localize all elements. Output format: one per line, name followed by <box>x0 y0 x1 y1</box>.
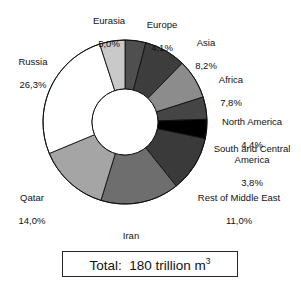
pie-chart-figure: Eurasia 5,0% Europe 4,1% Asia 8,2% Afric… <box>0 0 301 283</box>
total-amount: 180 <box>129 257 152 272</box>
donut-hole <box>92 89 158 155</box>
slice-label-russia-name: Russia <box>4 56 62 68</box>
slice-label-russia-value: 26,3% <box>4 79 62 91</box>
slice-label-africa-name: Africa <box>206 74 256 86</box>
slice-label-europe-value: 4,1% <box>136 42 188 54</box>
total-callout-text: Total: 180 trillion m3 <box>89 256 210 273</box>
slice-label-russia: Russia 26,3% <box>4 44 62 102</box>
slice-label-asia-name: Asia <box>182 37 230 49</box>
slice-label-qatar-value: 14,0% <box>4 215 60 227</box>
slice-label-eurasia-name: Eurasia <box>78 15 140 27</box>
slice-label-rest-of-middle-east: Rest of Middle East 11,0% <box>182 180 296 238</box>
slice-label-qatar: Qatar 14,0% <box>4 180 60 238</box>
slice-label-rest-of-middle-east-name: Rest of Middle East <box>182 192 296 204</box>
slice-label-rest-of-middle-east-value: 11,0% <box>182 215 296 227</box>
slice-label-iran-name: Iran <box>104 230 158 242</box>
slice-label-north-america-name: North America <box>206 116 298 128</box>
slice-label-europe: Europe 4,1% <box>136 7 188 65</box>
slice-label-europe-name: Europe <box>136 19 188 31</box>
slice-label-qatar-name: Qatar <box>4 192 60 204</box>
slice-label-eurasia-value: 5,0% <box>78 38 140 50</box>
total-prefix: Total: <box>89 257 121 272</box>
total-unit: trillion m <box>156 257 206 272</box>
total-callout-box: Total: 180 trillion m3 <box>62 251 238 277</box>
slice-label-south-central-america-name: South and Central America <box>204 143 300 166</box>
slice-label-eurasia: Eurasia 5,0% <box>78 3 140 61</box>
total-exponent: 3 <box>206 256 211 266</box>
